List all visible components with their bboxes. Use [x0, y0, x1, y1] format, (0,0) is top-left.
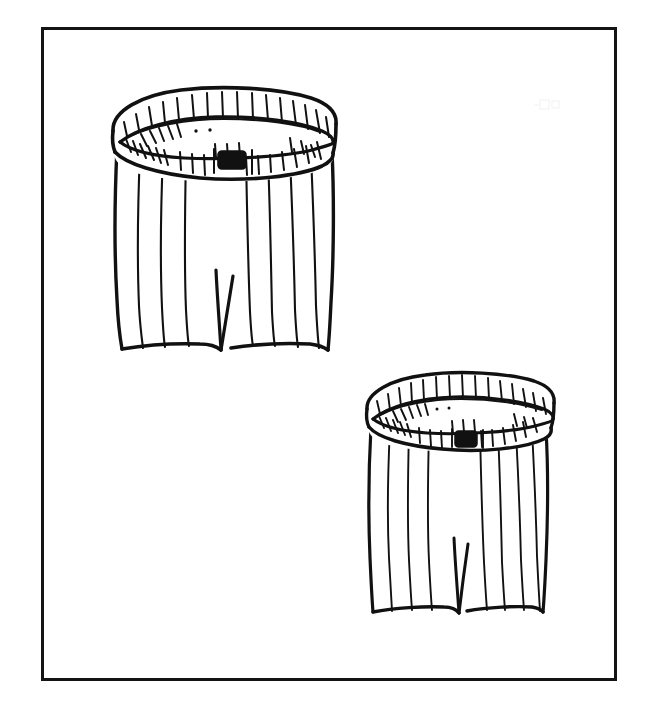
shorts-large-buckle-icon	[218, 151, 246, 169]
shorts-small-buckle-icon	[455, 431, 477, 447]
shorts-line-drawing	[0, 0, 649, 708]
illustration-canvas: Striped Shorts Pair Line Drawing	[0, 0, 649, 708]
